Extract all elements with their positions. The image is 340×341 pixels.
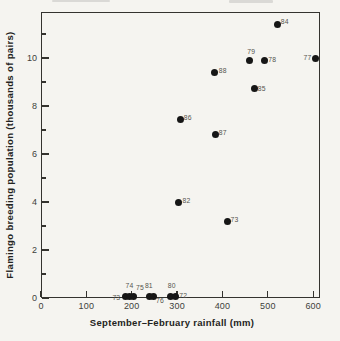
x-axis-tick-label: 100 <box>72 301 100 311</box>
y-axis-tick <box>42 249 49 250</box>
y-axis-minor-tick <box>42 81 46 82</box>
y-axis-minor-tick <box>42 33 46 34</box>
y-axis-tick-label: 0 <box>14 293 37 304</box>
y-axis-minor-tick <box>42 177 46 178</box>
y-axis-tick <box>42 201 49 202</box>
flamingo-rainfall-scatter-figure: Flamingo breeding population (thousands … <box>0 0 340 341</box>
y-axis-tick <box>42 153 49 154</box>
x-axis-tick-label: 600 <box>299 301 327 311</box>
y-axis-tick-label: 4 <box>14 197 37 208</box>
data-point-label-84: 84 <box>276 17 294 26</box>
data-point-label-81: 81 <box>140 281 158 290</box>
y-axis-tick-label: 2 <box>14 245 37 256</box>
data-point-label-82: 82 <box>177 196 195 205</box>
data-point-75 <box>130 293 137 300</box>
data-point-label-72: 72 <box>174 291 192 300</box>
y-axis-tick <box>42 297 49 298</box>
y-axis-tick <box>42 57 49 58</box>
x-axis-tick <box>86 291 87 298</box>
y-axis-tick-label: 6 <box>14 149 37 160</box>
data-point-label-77: 77 <box>298 53 316 62</box>
x-axis-tick <box>40 291 41 298</box>
data-point-label-78: 78 <box>263 55 281 64</box>
y-axis-tick-label: 8 <box>14 101 37 112</box>
data-point-label-80: 80 <box>163 281 181 290</box>
x-axis-tick <box>313 291 314 298</box>
y-axis-minor-tick <box>42 129 46 130</box>
x-axis-tick <box>267 291 268 298</box>
data-point-label-73: 73 <box>107 293 125 302</box>
x-axis-tick-label: 200 <box>118 301 146 311</box>
x-axis-title: September–February rainfall (mm) <box>0 317 340 328</box>
data-point-label-85: 85 <box>253 84 271 93</box>
data-point-79 <box>246 57 253 64</box>
data-point-label-79: 79 <box>242 47 260 56</box>
y-axis-minor-tick <box>42 225 46 226</box>
x-axis-tick <box>222 291 223 298</box>
plot-layer: 0100200300400500600024681084797877888586… <box>0 0 340 341</box>
y-axis-minor-tick <box>42 273 46 274</box>
y-axis-tick-label: 10 <box>14 53 37 64</box>
y-axis-tick <box>42 105 49 106</box>
x-axis-tick-label: 500 <box>254 301 282 311</box>
data-point-label-87: 87 <box>214 128 232 137</box>
data-point-label-86: 86 <box>179 113 197 122</box>
x-axis-tick-label: 400 <box>208 301 236 311</box>
data-point-label-73: 73 <box>225 215 243 224</box>
data-point-label-88: 88 <box>214 66 232 75</box>
